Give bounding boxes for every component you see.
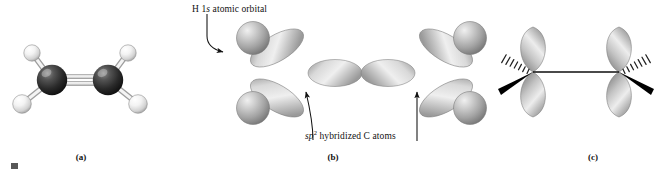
caption-panel-b: (b): [313, 152, 353, 162]
h-1s-sphere-upper-left: [237, 22, 270, 55]
p-orbital-svg: [488, 25, 665, 143]
sp2-lobe-sigma-left: [308, 60, 362, 87]
atom-h2: [13, 95, 32, 114]
h-1s-sphere-upper-right: [454, 22, 487, 55]
leader-h-1s: [207, 14, 223, 52]
atom-c2: [93, 65, 123, 95]
figure-ethene-bonding: (a) H 1s atomic orbital: [0, 0, 665, 174]
panel-b-sp2-overlap: [185, 0, 475, 150]
atom-h3: [120, 45, 136, 61]
left-carbon-group: [237, 21, 363, 124]
caption-panel-a: (a): [61, 152, 101, 162]
p-lobe-right-top: [607, 27, 632, 72]
label-sp2-text: sp2 hybridized C atoms: [305, 131, 396, 141]
sp2-overlap-svg: [185, 0, 475, 150]
atom-c1: [37, 65, 67, 95]
page-edge-artifact: [11, 163, 18, 169]
h-1s-sphere-lower-left: [237, 92, 270, 125]
h-1s-sphere-lower-right: [454, 92, 487, 125]
label-sp2-hybridized-c-atoms: sp2 hybridized C atoms: [305, 131, 396, 141]
caption-panel-c: (c): [573, 152, 613, 162]
right-carbon-group: [361, 21, 487, 124]
sp2-lobe-sigma-right: [361, 60, 415, 87]
ball-and-stick-svg: [0, 0, 175, 145]
p-lobe-left-top: [521, 27, 546, 72]
p-lobe-right-bottom: [607, 72, 632, 117]
panel-a-ball-and-stick: [0, 0, 175, 145]
atom-h4: [129, 95, 148, 114]
atom-h1: [24, 45, 40, 61]
p-lobe-left-bottom: [521, 72, 546, 117]
panel-c-p-orbitals: [488, 25, 665, 143]
